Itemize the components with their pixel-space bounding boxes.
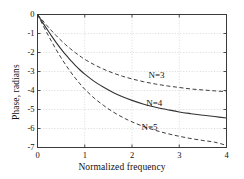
curve-annotation-n3: N=3	[149, 70, 165, 80]
y-tick-label: -6	[17, 123, 35, 133]
y-tick-label: -2	[17, 47, 35, 57]
y-tick-label: -7	[17, 142, 35, 152]
curve-annotation-n4: N=4	[146, 98, 162, 108]
curve-n4	[38, 15, 227, 119]
gridlines	[38, 15, 227, 148]
y-tick-label: -1	[17, 28, 35, 38]
x-tick-label: 4	[217, 150, 237, 160]
y-tick-label: -5	[17, 104, 35, 114]
x-tick-label: 2	[122, 150, 142, 160]
y-tick-label: -4	[17, 85, 35, 95]
curve-annotation-n5: N=5	[141, 122, 157, 132]
x-axis-title: Normalized frequency	[0, 162, 244, 172]
x-tick-label: 3	[169, 150, 189, 160]
figure-phase-vs-normalized-frequency: Normalized frequency Phase, radians 0123…	[0, 0, 244, 179]
y-tick-label: -3	[17, 66, 35, 76]
x-tick-label: 1	[75, 150, 95, 160]
y-tick-label: 0	[17, 9, 35, 19]
